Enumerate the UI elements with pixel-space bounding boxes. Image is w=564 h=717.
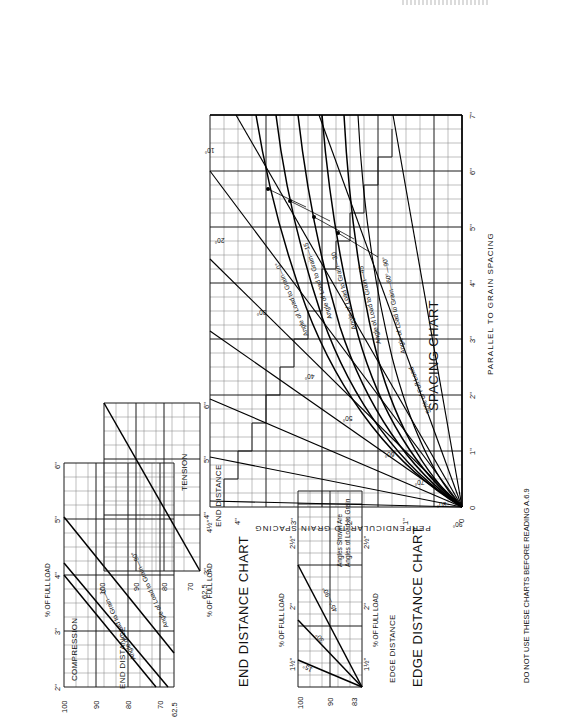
spacing-y-tick-4: 4" (233, 518, 242, 525)
edge-distance-grid (298, 487, 370, 687)
spacing-x-tick-4: 4" (468, 280, 477, 287)
edge-load-tick-100: 100 (296, 696, 305, 709)
spacing-y-tick-4h: 4½" (205, 520, 214, 533)
tens-load-tick-100: 100 (98, 582, 107, 595)
compression-panel-label: COMPRESSION (70, 618, 79, 681)
edge-load-tick-90: 90 (326, 698, 335, 706)
spacing-x-tick-7: 7" (468, 112, 477, 119)
spacing-radial-label-60: 60° (385, 451, 395, 458)
tension-panel-label: TENSION (180, 453, 189, 491)
comp-dist-tick-6: 6" (53, 462, 62, 469)
spacing-chart-title: SPACING CHART (426, 300, 441, 411)
comp-dist-tick-2: 2" (53, 684, 62, 691)
spacing-y-tick-0: 0 (457, 519, 466, 523)
tens-dist-tick-4: 4" (202, 512, 211, 519)
comp-load-tick-70: 70 (156, 701, 165, 709)
tens-load-tick-80: 80 (160, 583, 169, 591)
comp-dist-tick-3: 3" (53, 628, 62, 635)
spacing-radial-label-80: 80° (437, 501, 447, 508)
spacing-chart-grid (210, 87, 496, 507)
spacing-x-tick-5: 5" (468, 224, 477, 231)
spacing-radial-label-70: 70° (415, 479, 425, 486)
edge-distance-tick-2: 2½" (288, 536, 297, 549)
spacing-x-tick-3: 3" (468, 336, 477, 343)
end-distance-chart-title: END DISTANCE CHART (236, 536, 251, 687)
tens-load-tick-62: 62.5 (200, 584, 209, 599)
warning-note: DO NOT USE THESE CHARTS BEFORE READING A… (522, 453, 531, 683)
spacing-x-tick-2: 2" (468, 392, 477, 399)
comp-load-tick-100: 100 (60, 700, 69, 713)
tens-load-tick-70: 70 (186, 583, 195, 591)
end-load-axis-label-top: % OF FULL LOAD (44, 563, 51, 617)
spacing-radial-label-40: 40° (305, 373, 315, 380)
spacing-radial-label-20: 20° (215, 237, 225, 244)
spacing-x-tick-0: 0 (468, 506, 477, 510)
comp-dist-tick-5: 5" (53, 516, 62, 523)
edge-distance-tick-0: 1½" (288, 658, 297, 671)
spacing-radial-label-50: 50° (343, 415, 353, 422)
spacing-y-axis-label: PERPENDICULAR TO GRAIN SPACING (254, 524, 430, 533)
tens-dist-tick-3: 3" (202, 568, 211, 575)
edge-load-tick-83: 83 (350, 698, 359, 706)
comp-load-tick-80: 80 (124, 701, 133, 709)
edge-load-axis-label-bottom: % OF FULL LOAD (372, 593, 379, 647)
comp-load-tick-62: 62.5 (170, 702, 179, 717)
edge-distance-tick-1: 2" (288, 603, 297, 610)
edge-distance-axis-title: EDGE DISTANCE (388, 614, 397, 683)
comp-load-tick-90: 90 (92, 701, 101, 709)
comp-dist-tick-4: 4" (53, 572, 62, 579)
spacing-radial-label-30: 30° (257, 309, 267, 316)
spacing-x-tick-6: 6" (468, 168, 477, 175)
spacing-chart: Angle of Load to Grain—0° Angle of Load … (210, 37, 540, 507)
tens-load-tick-90: 90 (132, 583, 141, 591)
edge-load-axis-label-top: % OF FULL LOAD (278, 593, 285, 647)
spacing-x-tick-1: 1" (468, 448, 477, 455)
spacing-x-axis-label: PARALLEL TO GRAIN SPACING (486, 232, 495, 375)
spacing-radial-label-10: 10° (205, 147, 215, 154)
edge-distance-chart-title: EDGE DISTANCE CHART (410, 526, 425, 687)
